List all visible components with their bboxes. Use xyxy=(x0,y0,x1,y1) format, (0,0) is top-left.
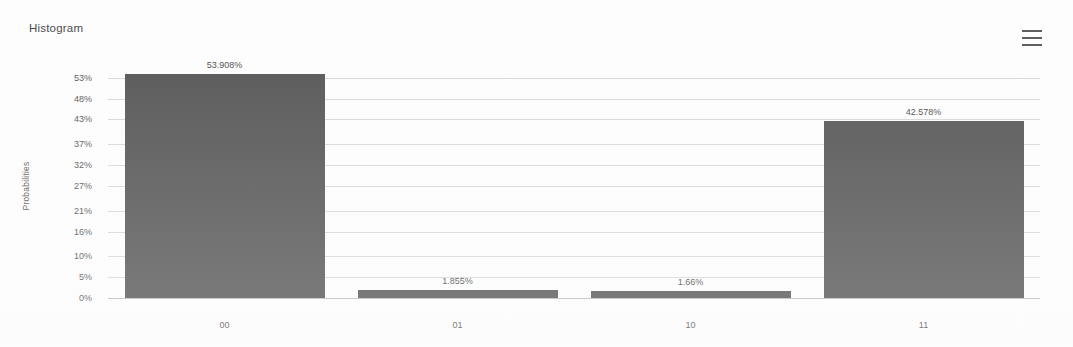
menu-icon-bar xyxy=(1022,37,1042,39)
bar-value-label: 1.855% xyxy=(442,276,473,286)
y-axis-tick-labels: 0%5%10%16%21%27%32%37%43%48%53% xyxy=(0,74,100,298)
histogram-screenshot: Histogram Probabilities 0%5%10%16%21%27%… xyxy=(0,0,1073,347)
y-axis-tick: 5% xyxy=(79,272,92,282)
axis-baseline xyxy=(108,298,1040,299)
x-axis-tick: 11 xyxy=(919,320,928,330)
y-axis-tick: 0% xyxy=(79,293,92,303)
y-axis-tick: 37% xyxy=(74,139,92,149)
y-axis-tick: 32% xyxy=(74,160,92,170)
y-axis-tick: 27% xyxy=(74,181,92,191)
y-axis-tick: 21% xyxy=(74,206,92,216)
bar[interactable] xyxy=(824,121,1024,298)
menu-icon-bar xyxy=(1022,30,1042,32)
x-axis-tick: 10 xyxy=(685,320,695,330)
bar-value-label: 42.578% xyxy=(906,107,942,117)
plot-area xyxy=(108,74,1040,298)
y-axis-tick: 53% xyxy=(74,73,92,83)
y-axis-tick: 48% xyxy=(74,94,92,104)
hamburger-menu-icon[interactable] xyxy=(1022,30,1042,46)
y-axis-tick: 43% xyxy=(74,114,92,124)
bar-value-label: 53.908% xyxy=(207,60,243,70)
menu-icon-bar xyxy=(1022,44,1042,46)
y-axis-tick: 10% xyxy=(74,251,92,261)
bar[interactable] xyxy=(591,291,791,298)
bar[interactable] xyxy=(358,290,558,298)
x-axis-tick: 00 xyxy=(219,320,229,330)
bar[interactable] xyxy=(125,74,325,298)
bar-value-label: 1.66% xyxy=(678,277,704,287)
y-axis-tick: 16% xyxy=(74,227,92,237)
page-title: Histogram xyxy=(29,22,83,34)
x-axis-tick: 01 xyxy=(452,320,462,330)
